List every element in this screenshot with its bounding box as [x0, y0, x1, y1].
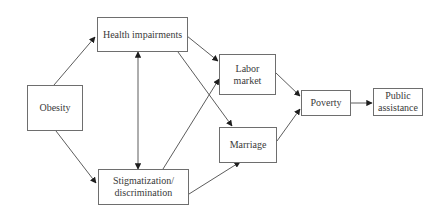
- node-labor: Labor market: [219, 54, 276, 95]
- node-label: Poverty: [310, 97, 341, 109]
- arrow-obesity-to-stigma: [56, 131, 96, 183]
- node-label: Marriage: [230, 139, 267, 151]
- node-assistance: Public assistance: [373, 88, 423, 116]
- arrow-stigma-to-marriage: [189, 162, 240, 194]
- node-label: Obesity: [39, 102, 70, 114]
- node-marriage: Marriage: [219, 127, 277, 163]
- arrow-labor-to-poverty: [276, 73, 300, 96]
- arrow-marriage-to-poverty: [277, 109, 300, 141]
- arrow-stigma-to-labor: [163, 79, 219, 169]
- arrow-obesity-to-health: [54, 37, 95, 85]
- node-poverty: Poverty: [301, 90, 351, 116]
- node-label: Health impairments: [103, 29, 182, 41]
- node-label: Public assistance: [378, 90, 418, 114]
- node-stigma: Stigmatization/ discrimination: [98, 169, 189, 205]
- node-health: Health impairments: [97, 17, 188, 52]
- arrow-health-to-labor: [187, 36, 218, 61]
- node-label: Labor market: [234, 63, 262, 87]
- node-obesity: Obesity: [27, 85, 83, 131]
- node-label: Stigmatization/ discrimination: [113, 175, 174, 199]
